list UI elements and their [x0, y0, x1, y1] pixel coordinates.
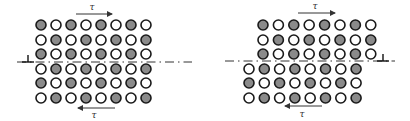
atom-filled [290, 64, 300, 74]
atom-filled [336, 78, 346, 88]
shear-stress-arrow-bottom: τ [285, 106, 322, 119]
atom-empty [111, 78, 121, 88]
atom-empty [244, 93, 254, 103]
atom-filled [273, 35, 283, 45]
atom-filled [111, 93, 121, 103]
atom-empty [141, 78, 151, 88]
atom-empty [275, 93, 285, 103]
atom-filled [81, 35, 91, 45]
atom-empty [36, 35, 46, 45]
atom-empty [366, 20, 376, 30]
tau-label: τ [313, 1, 319, 11]
atom-filled [351, 64, 361, 74]
atom-empty [111, 49, 121, 59]
atom-filled [141, 35, 151, 45]
atom-empty [81, 49, 91, 59]
tau-label: τ [300, 109, 306, 119]
atom-empty [304, 20, 314, 30]
atom-filled [126, 20, 136, 30]
tau-label: τ [92, 110, 98, 120]
atom-filled [304, 35, 314, 45]
atom-empty [289, 35, 299, 45]
atom-empty [81, 20, 91, 30]
atom-filled [81, 93, 91, 103]
atom-filled [111, 35, 121, 45]
atom-empty [126, 64, 136, 74]
atom-empty [96, 35, 106, 45]
atom-filled [96, 49, 106, 59]
atom-filled [96, 20, 106, 30]
atom-empty [258, 35, 268, 45]
atom-filled [305, 78, 315, 88]
atom-empty [96, 64, 106, 74]
shear-stress-arrow-bottom: τ [78, 108, 115, 120]
atom-filled [36, 20, 46, 30]
atom-empty [335, 49, 345, 59]
atom-filled [290, 93, 300, 103]
atom-empty [36, 93, 46, 103]
atom-empty [51, 78, 61, 88]
atom-filled [51, 93, 61, 103]
atom-empty [141, 49, 151, 59]
atom-filled [51, 35, 61, 45]
atom-empty [126, 93, 136, 103]
atom-filled [258, 20, 268, 30]
atom-empty [273, 49, 283, 59]
atom-empty [81, 78, 91, 88]
atom-empty [290, 78, 300, 88]
panel-after-slip: ττ [225, 1, 395, 119]
atom-empty [111, 20, 121, 30]
atom-empty [305, 64, 315, 74]
atom-filled [141, 64, 151, 74]
atom-empty [51, 49, 61, 59]
atom-empty [66, 93, 76, 103]
dislocation-symbol-icon [377, 54, 389, 61]
atom-empty [335, 20, 345, 30]
atom-empty [320, 35, 330, 45]
atom-empty [66, 35, 76, 45]
atom-empty [96, 93, 106, 103]
atom-empty [36, 64, 46, 74]
atom-filled [259, 64, 269, 74]
atom-filled [335, 35, 345, 45]
atom-filled [244, 78, 254, 88]
atom-empty [336, 64, 346, 74]
atom-empty [141, 20, 151, 30]
atom-empty [366, 49, 376, 59]
atom-filled [320, 20, 330, 30]
atom-filled [350, 20, 360, 30]
atom-filled [321, 64, 331, 74]
atom-filled [81, 64, 91, 74]
atom-filled [351, 93, 361, 103]
shear-stress-arrow-top: τ [298, 1, 335, 13]
atom-filled [51, 64, 61, 74]
atom-filled [96, 78, 106, 88]
atom-empty [244, 64, 254, 74]
shear-stress-arrow-top: τ [76, 2, 112, 14]
atom-empty [51, 20, 61, 30]
atom-filled [350, 49, 360, 59]
atom-filled [320, 49, 330, 59]
atom-filled [66, 49, 76, 59]
atom-filled [36, 49, 46, 59]
atom-empty [126, 35, 136, 45]
atom-filled [259, 93, 269, 103]
atom-filled [275, 78, 285, 88]
atom-filled [66, 20, 76, 30]
atom-empty [304, 49, 314, 59]
atom-empty [321, 78, 331, 88]
atom-filled [126, 78, 136, 88]
atom-empty [305, 93, 315, 103]
atom-empty [273, 20, 283, 30]
atom-empty [350, 35, 360, 45]
atom-filled [66, 78, 76, 88]
atom-filled [111, 64, 121, 74]
atom-filled [366, 35, 376, 45]
atom-filled [36, 78, 46, 88]
atom-filled [258, 49, 268, 59]
dislocation-symbol-icon [22, 55, 34, 62]
panel-before-slip: ττ [17, 2, 192, 120]
atom-filled [321, 93, 331, 103]
atom-empty [275, 64, 285, 74]
atom-filled [289, 49, 299, 59]
